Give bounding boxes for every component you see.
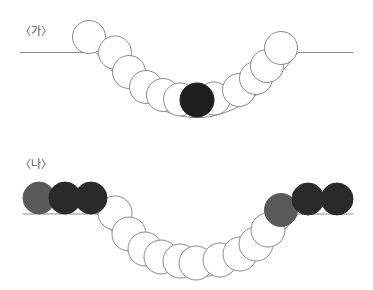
- ball-bowl-diagram: [0, 0, 373, 290]
- panel-ga: [20, 21, 353, 118]
- panel-na: [23, 182, 353, 280]
- ball-dark: [75, 182, 107, 214]
- ball-dark: [321, 183, 353, 215]
- ball-black: [180, 83, 214, 117]
- ball-white: [265, 32, 298, 65]
- ball-dark: [292, 183, 324, 215]
